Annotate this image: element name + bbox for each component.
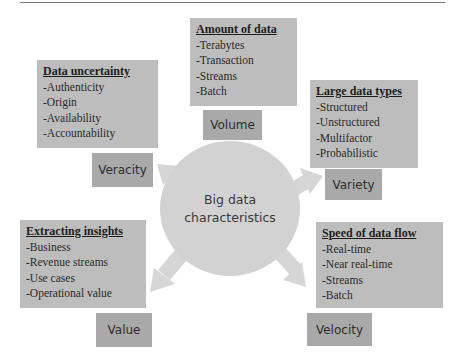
volume-info-box: Amount of data -Terabytes -Transaction -… (190, 18, 297, 106)
center-node: Big data characteristics (160, 141, 300, 276)
variety-title: Large data types (316, 84, 412, 100)
list-item: -Batch (322, 288, 437, 304)
veracity-title: Data uncertainty (43, 64, 152, 80)
list-item: -Terabytes (196, 38, 291, 54)
list-item: -Use cases (26, 271, 140, 287)
list-item: -Structured (316, 100, 412, 116)
variety-label: Variety (325, 169, 382, 200)
list-item: -Authenticity (43, 80, 152, 96)
list-item: -Unstructured (316, 115, 412, 131)
list-item: -Probabilistic (316, 146, 412, 162)
list-item: -Streams (196, 69, 291, 85)
velocity-info-box: Speed of data flow -Real-time -Near real… (316, 222, 443, 308)
volume-label: Volume (203, 110, 262, 140)
volume-title: Amount of data (196, 22, 291, 38)
list-item: -Availability (43, 111, 152, 127)
list-item: -Revenue streams (26, 255, 140, 271)
veracity-label: Veracity (92, 153, 153, 187)
variety-info-box: Large data types -Structured -Unstructur… (310, 80, 418, 168)
list-item: -Accountability (43, 126, 152, 142)
list-item: -Transaction (196, 53, 291, 69)
list-item: -Streams (322, 273, 437, 289)
center-label-line1: Big data (204, 191, 256, 209)
velocity-title: Speed of data flow (322, 226, 437, 242)
list-item: -Origin (43, 95, 152, 111)
center-label-line2: characteristics (184, 209, 276, 227)
veracity-info-box: Data uncertainty -Authenticity -Origin -… (37, 60, 158, 148)
list-item: -Operational value (26, 286, 140, 302)
value-label: Value (96, 313, 152, 347)
value-title: Extracting insights (26, 224, 140, 240)
velocity-label: Velocity (307, 313, 372, 346)
list-item: -Near real-time (322, 257, 437, 273)
list-item: -Batch (196, 84, 291, 100)
list-item: -Multifactor (316, 131, 412, 147)
list-item: -Real-time (322, 242, 437, 258)
value-info-box: Extracting insights -Business -Revenue s… (20, 220, 146, 308)
list-item: -Business (26, 240, 140, 256)
